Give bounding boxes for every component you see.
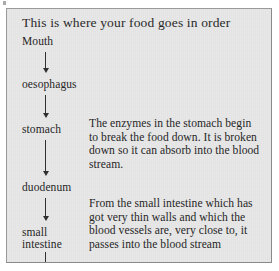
flow-node-mouth: Mouth <box>22 35 53 47</box>
page-title: This is where your food goes in order <box>22 15 230 30</box>
flow-arrow-oesophagus-to-stomach <box>41 95 50 119</box>
scan-artifact-mark <box>3 1 6 5</box>
flow-arrow-stomach-to-duodenum <box>41 140 50 177</box>
flow-arrow-small-to-large-intestine <box>41 252 50 263</box>
flow-node-small-intestine: small intestine <box>22 226 62 250</box>
flow-node-oesophagus: oesophagus <box>22 78 77 90</box>
worksheet-panel: This is where your food goes in order Mo… <box>6 8 272 263</box>
annotation-small-intestine: From the small intestine which has got v… <box>89 197 263 251</box>
annotation-stomach: The enzymes in the stomach begin to brea… <box>89 117 263 171</box>
flow-arrow-mouth-to-oesophagus <box>41 52 50 74</box>
flow-node-duodenum: duodenum <box>22 181 71 193</box>
flow-arrow-duodenum-to-small-intestine <box>41 198 50 222</box>
flow-node-stomach: stomach <box>22 123 61 135</box>
